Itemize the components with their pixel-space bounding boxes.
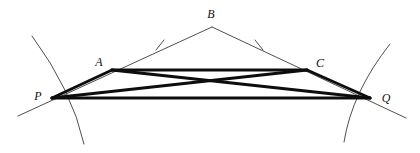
geometry-figure: P A B C Q [0,0,420,153]
vertex-label-P: P [34,90,41,102]
vertex-label-B: B [207,8,214,20]
figure-background [0,0,420,153]
vertex-label-A: A [95,56,102,68]
vertex-label-Q: Q [382,92,391,104]
vertex-label-C: C [316,57,324,69]
figure-canvas [0,0,420,153]
